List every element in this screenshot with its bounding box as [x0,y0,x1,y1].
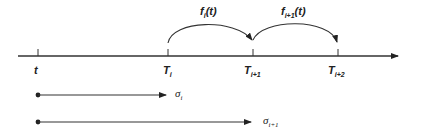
timeline-diagram: t Ti Ti+1 Ti+2 fi(t) fi+1(t) σi σi+1 [0,0,429,132]
tick-label-Ti: Ti [163,64,172,78]
diagram-graphics [0,0,429,132]
interval-label-sigma-i1: σi+1 [263,114,279,129]
tick-label-Ti1: Ti+1 [244,64,261,78]
arc-label-fi1: fi+1(t) [281,5,306,19]
tick-label-t: t [34,64,38,76]
arc-fi [168,25,252,43]
arc-fi1 [253,24,337,42]
arc-label-fi: fi(t) [200,5,217,19]
tick-label-Ti2: Ti+2 [328,64,345,78]
interval-label-sigma-i: σi [175,87,182,102]
